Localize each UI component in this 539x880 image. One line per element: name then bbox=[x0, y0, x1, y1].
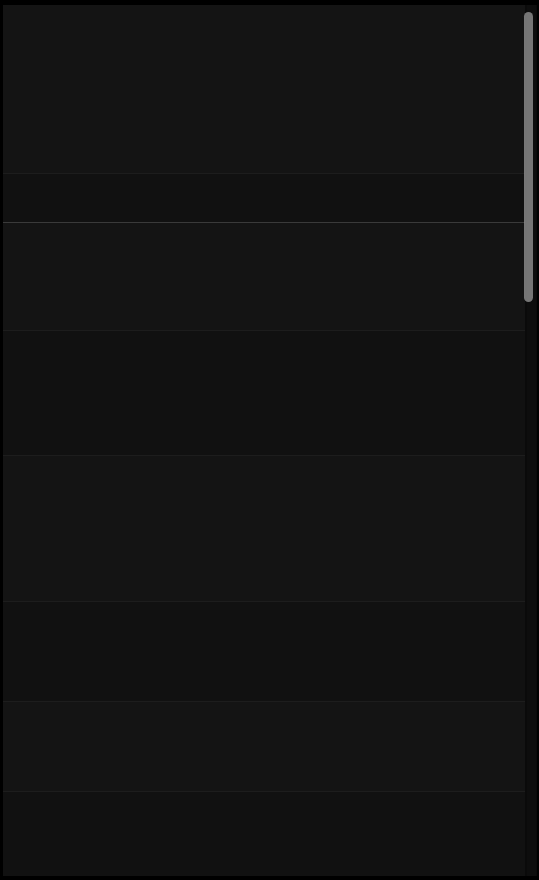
section-fifth bbox=[3, 456, 525, 601]
section-divider-3 bbox=[3, 455, 525, 456]
section-divider-2 bbox=[3, 330, 525, 331]
app-screen bbox=[0, 0, 539, 880]
section-second bbox=[3, 174, 525, 222]
section-divider-4 bbox=[3, 601, 525, 602]
vertical-scrollbar-thumb[interactable] bbox=[524, 12, 533, 302]
section-fourth bbox=[3, 331, 525, 455]
section-divider-1 bbox=[3, 173, 525, 174]
section-divider-5 bbox=[3, 701, 525, 702]
vertical-scrollbar-track[interactable] bbox=[527, 5, 536, 876]
section-third bbox=[3, 223, 525, 330]
scroll-viewport[interactable] bbox=[3, 5, 525, 876]
section-sixth bbox=[3, 602, 525, 701]
section-top bbox=[3, 5, 525, 173]
frame-edge-bottom bbox=[0, 876, 539, 880]
section-divider-6 bbox=[3, 791, 525, 792]
section-seventh bbox=[3, 702, 525, 791]
primary-divider bbox=[3, 222, 525, 223]
section-eighth bbox=[3, 792, 525, 876]
